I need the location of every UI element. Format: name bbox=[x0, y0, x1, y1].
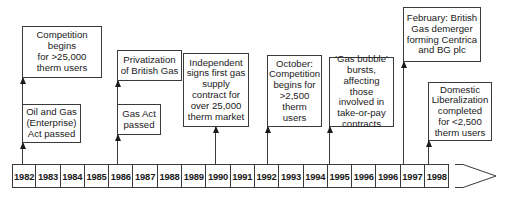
year-cell: 1996 bbox=[376, 164, 400, 188]
event-box-1982-competition: Competition begins for >25,000 therm use… bbox=[22, 26, 102, 78]
arrowhead-icon bbox=[20, 77, 26, 84]
arrowhead-icon bbox=[213, 126, 219, 133]
year-cell: 1987 bbox=[133, 164, 157, 188]
year-cell: 1993 bbox=[279, 164, 303, 188]
event-box-1986-privatization: Privatization of British Gas bbox=[117, 50, 182, 81]
year-cell: 1996 bbox=[352, 164, 376, 188]
event-text: Competition begins for >25,000 therm use… bbox=[36, 30, 87, 73]
arrowhead-icon bbox=[401, 61, 407, 68]
year-cell: 1988 bbox=[158, 164, 182, 188]
year-cell: 1982 bbox=[12, 164, 36, 188]
year-cell: 1991 bbox=[231, 164, 255, 188]
arrowhead-icon bbox=[115, 80, 121, 87]
event-text: October: Competition begins for >2,500 t… bbox=[269, 59, 320, 124]
event-text: Privatization of British Gas bbox=[121, 55, 179, 77]
year-cell: 1990 bbox=[206, 164, 230, 188]
year-cell: 1997 bbox=[401, 164, 425, 188]
arrowhead-icon bbox=[265, 126, 271, 133]
event-box-1986-gas-act: Gas Act passed bbox=[117, 104, 161, 135]
arrowhead-icon bbox=[20, 142, 26, 149]
event-text: Oil and Gas (Enterprise) Act passed bbox=[26, 107, 77, 139]
event-text: Gas Act passed bbox=[122, 109, 156, 131]
event-text: Domestic Liberalization completed for <2… bbox=[432, 85, 489, 139]
year-cell: 1984 bbox=[61, 164, 85, 188]
event-box-1992-october: October: Competition begins for >2,500 t… bbox=[267, 55, 322, 127]
connector-1997 bbox=[403, 61, 404, 164]
event-box-1990-independent: Independent signs first gas supply contr… bbox=[183, 53, 249, 127]
event-box-1982-act: Oil and Gas (Enterprise) Act passed bbox=[22, 104, 81, 143]
year-cell: 1994 bbox=[304, 164, 328, 188]
event-box-1995-gas-bubble: 'Gas bubble' bursts, affecting those inv… bbox=[329, 57, 394, 127]
year-cell: 1983 bbox=[36, 164, 60, 188]
year-cell: 1998 bbox=[425, 164, 449, 188]
year-cell: 1985 bbox=[85, 164, 109, 188]
arrowhead-icon bbox=[426, 140, 432, 147]
arrowhead-icon bbox=[115, 134, 121, 141]
timeline-arrow-tip-icon bbox=[455, 164, 499, 188]
timeline-year-strip: 1982 1983 1984 1985 1986 1987 1988 1989 … bbox=[12, 164, 449, 188]
year-cell: 1986 bbox=[109, 164, 133, 188]
event-text: February: British Gas demerger forming C… bbox=[407, 13, 477, 56]
event-text: 'Gas bubble' bursts, affecting those inv… bbox=[332, 54, 391, 130]
event-text: Independent signs first gas supply contr… bbox=[187, 58, 246, 123]
year-cell: 1992 bbox=[255, 164, 279, 188]
event-box-1998-domestic: Domestic Liberalization completed for <2… bbox=[428, 82, 492, 141]
event-box-1997-demerger: February: British Gas demerger forming C… bbox=[403, 7, 481, 62]
year-cell: 1989 bbox=[182, 164, 206, 188]
year-cell: 1995 bbox=[328, 164, 352, 188]
